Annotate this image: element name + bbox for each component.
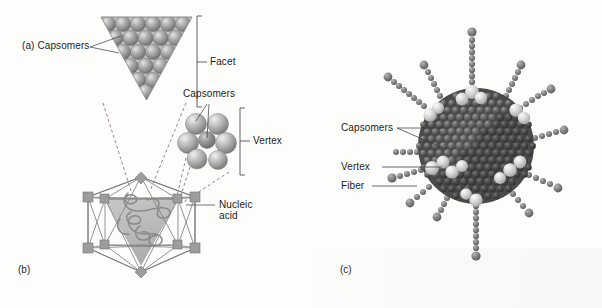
capsomer-hexon (521, 128, 528, 135)
capsomer-hexon (444, 178, 451, 185)
capsomer-hexon (424, 128, 431, 135)
capsomer-hexon (420, 121, 426, 127)
adenovirus-model (384, 27, 569, 260)
capsomer-hexon (444, 107, 451, 114)
panel-label-c: (c) (340, 264, 352, 275)
capsomer-hexon (476, 178, 484, 186)
facet-triangle-group (100, 16, 192, 100)
capsomer-hexon (504, 142, 512, 150)
capsomer-hexon (456, 113, 464, 121)
capsomer-hexon (484, 178, 492, 186)
capsomer-hexon (460, 106, 468, 114)
capsomer-hexon (513, 128, 521, 136)
capsomer-hexon (452, 178, 460, 186)
capsomer-hexon (428, 121, 435, 128)
capsomer-hexon (484, 163, 493, 172)
capsomer-hexon (496, 114, 504, 122)
capsomer-hexon (525, 164, 531, 170)
capsomer-hexon (436, 178, 443, 185)
panel-label-b: (b) (18, 264, 30, 275)
capsomer-hexon (493, 93, 500, 100)
capsomer-hexon (480, 170, 488, 178)
adenovirus-capsid (416, 85, 536, 207)
label-c-capsomers: Capsomers (341, 122, 393, 133)
capsomer-hexon (500, 149, 508, 157)
capsomer-hexon (439, 142, 447, 150)
capsomer-hexon (500, 121, 508, 129)
label-nucleic-acid-line1: Nucleic (219, 199, 253, 210)
label-facet: Facet (210, 56, 236, 67)
capsomer-hexon (444, 121, 452, 129)
capsomer-hexon (416, 143, 422, 149)
capsomer-hexon (493, 193, 500, 200)
capsomer-hexon (452, 193, 459, 200)
capsomer-hexon (496, 156, 504, 164)
capsomer-hexon (448, 100, 455, 107)
capsomer-hexon (420, 150, 427, 157)
capsomer-hexon (488, 113, 496, 121)
capsomer-hexon (517, 135, 524, 142)
capsomer-hexon (513, 142, 521, 150)
capsomer-hexon (436, 135, 444, 143)
capsomer-hexon (460, 178, 468, 186)
capsomer-hexon (525, 136, 532, 143)
capsomer-hexon (505, 114, 513, 122)
capsomer-hexon (484, 106, 492, 114)
vertex-capsomer-cluster (178, 114, 237, 170)
capsomer-hexon (509, 121, 517, 129)
capsomer-hexon (521, 171, 527, 177)
icosahedron-capsid (83, 172, 200, 278)
label-c-vertex: Vertex (341, 161, 370, 172)
virus-structure-figure: (a) Capsomers Facet Capsomers Vertex Nuc… (0, 0, 602, 308)
capsomer-hexon (476, 106, 484, 114)
capsomer-hexon (496, 127, 504, 135)
capsomer-hexon (500, 135, 508, 143)
capsomer-hexon (448, 185, 455, 192)
capsomer-hexon (428, 149, 435, 156)
capsomer-hexon (444, 135, 452, 143)
capsomer-hexon (489, 185, 496, 192)
capsomer-hexon (452, 107, 460, 115)
label-nucleic-acid-line2: acid (219, 210, 238, 221)
capsomer-hexon (448, 114, 456, 122)
capsomer-hexon (432, 128, 440, 136)
capsomer-hexon (468, 106, 476, 114)
vertex-bracket (240, 108, 250, 175)
capsomer-hexon (525, 150, 532, 157)
capsomer-hexon (501, 107, 508, 114)
capsomer-hexon (521, 142, 528, 149)
capsomer-hexon (472, 170, 480, 178)
capsomer-hexon (464, 170, 472, 178)
capsomer-hexon (489, 100, 496, 107)
capsomer-hexon (472, 185, 480, 193)
capsomer-hexon (530, 143, 536, 149)
capsomer-hexon (440, 185, 447, 192)
capsomer-hexon (505, 100, 512, 107)
label-c-fiber: Fiber (341, 180, 364, 191)
capsomer-hexon (492, 107, 500, 115)
capsomer-hexon (508, 149, 516, 157)
capsomer-hexon (447, 127, 455, 135)
capsomer-hexon (436, 121, 444, 129)
capsomer-hexon (480, 185, 488, 193)
capsomer-hexon (440, 128, 448, 136)
capsomer-hexon (497, 100, 504, 107)
capsomer-hexon (509, 178, 516, 185)
capsomer-hexon (468, 178, 476, 186)
capsomer-hexon (508, 135, 516, 143)
capsomer-hexon (492, 163, 500, 171)
capsomer-hexon (485, 192, 492, 199)
capsomer-hexon (424, 142, 431, 149)
label-vertex: Vertex (253, 135, 282, 146)
label-capsomers-vertex: Capsomers (183, 88, 235, 99)
label-a-capsomers: (a) Capsomers (22, 40, 89, 51)
capsomer-hexon (497, 185, 504, 192)
capsomer-hexon (504, 128, 512, 136)
capsomer-hexon (505, 185, 512, 192)
capsomer-hexon (440, 114, 448, 122)
capsomer-hexon (420, 136, 427, 143)
capsomer-hexon (504, 156, 512, 164)
figure-canvas (0, 0, 602, 308)
